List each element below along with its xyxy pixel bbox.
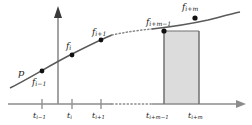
label-t-i-plus-m-sub: i+m [191,114,202,120]
figure-graphics [0,0,252,125]
label-f-i-plus-1: fi+1 [92,28,106,37]
label-t-i-plus-1: ti+1 [92,112,105,121]
label-f-i-plus-m-minus-1: fi+m−1 [146,18,171,27]
curve-p-dotted-gap [112,29,152,35]
label-t-i: ti [67,112,72,121]
label-f-i-plus-m: fi+m [182,3,198,12]
data-point-f-i-plus-1 [99,38,104,43]
label-t-i-plus-1-sub: i+1 [95,114,105,120]
figure-canvas: p fi−1 fi fi+1 fi+m−1 fi+m ti−1 ti ti+1 … [0,0,252,125]
label-f-i-sub: i [69,44,71,51]
label-t-i-plus-m-minus-1: ti+m−1 [146,112,169,121]
label-t-i-plus-m-minus-1-sub: i+m−1 [149,114,168,120]
label-f-i-plus-m-sub: i+m [185,5,198,12]
label-f-i-plus-1-sub: i+1 [95,30,106,37]
label-t-i-minus-1: ti−1 [33,112,46,121]
label-t-i-sub: i [70,114,72,120]
value-axis-arrowhead-icon [54,6,62,18]
label-f-i: fi [66,42,71,51]
label-f-i-minus-1-sub: i−1 [35,80,46,87]
label-f-i-minus-1: fi−1 [32,78,46,87]
data-point-f-i-minus-1 [40,69,45,74]
label-f-i-plus-m-minus-1-sub: i+m−1 [149,20,171,27]
label-t-i-plus-m: ti+m [188,112,203,121]
curve-label-p: p [18,68,24,78]
t-axis-arrowhead-icon [236,100,246,108]
curve-p-left [10,35,112,88]
data-point-f-i-plus-m-minus-1 [161,28,166,33]
shaded-interval-panel [164,31,199,104]
data-point-f-i-plus-m [192,15,197,20]
label-t-i-minus-1-sub: i−1 [36,114,46,120]
data-point-f-i [70,53,75,58]
